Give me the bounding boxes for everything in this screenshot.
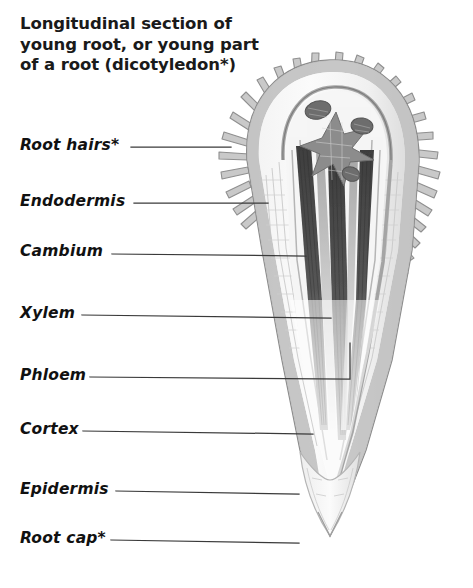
label-root-hairs: Root hairs* — [20, 136, 119, 154]
label-phloem: Phloem — [20, 366, 86, 384]
label-xylem: Xylem — [20, 304, 75, 322]
figure-page: Longitudinal section of young root, or y… — [0, 0, 473, 588]
label-endodermis: Endodermis — [20, 192, 125, 210]
leader-lines — [0, 0, 473, 588]
leader-cambium — [112, 254, 306, 256]
leader-xylem — [82, 315, 331, 318]
label-root-cap: Root cap* — [20, 529, 106, 547]
leader-epidermis — [116, 491, 299, 494]
label-cambium: Cambium — [20, 242, 103, 260]
label-cortex: Cortex — [20, 420, 79, 438]
label-epidermis: Epidermis — [20, 480, 109, 498]
leader-cortex — [83, 431, 313, 434]
leader-phloem — [90, 343, 350, 379]
leader-root-cap — [111, 540, 299, 543]
